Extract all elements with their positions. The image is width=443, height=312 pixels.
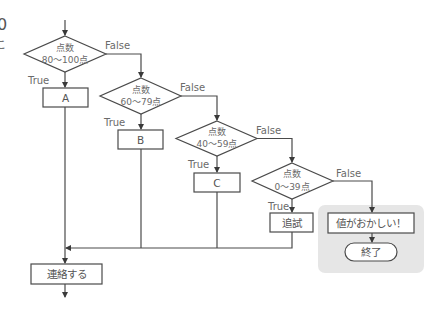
process-c-label: C	[213, 177, 220, 189]
decision-40-59: 点数 40〜59点	[176, 121, 257, 156]
true-label: True	[103, 117, 125, 128]
decision-label-line2: 60〜79点	[121, 97, 162, 107]
decision-label-line1: 点数	[132, 84, 150, 95]
merge-line	[66, 232, 292, 248]
process-a-label: A	[62, 92, 70, 104]
process-b: B	[118, 130, 163, 149]
edge-fragment-1: 0	[0, 15, 7, 34]
process-contact-label: 連絡する	[47, 268, 87, 280]
terminal-end-label: 終了	[361, 246, 381, 258]
process-retest: 追試	[270, 213, 313, 232]
false-label: False	[256, 125, 281, 136]
process-c: C	[194, 173, 240, 192]
decision-label-line1: 点数	[283, 168, 301, 179]
true-label: True	[267, 201, 289, 212]
decision-label-line2: 40〜59点	[197, 139, 238, 149]
arrow-d2-false	[181, 96, 217, 120]
decision-label-line1: 点数	[208, 126, 226, 137]
false-label: False	[180, 82, 205, 93]
true-label: True	[187, 159, 209, 170]
terminal-end: 終了	[345, 243, 397, 261]
decision-label-line1: 点数	[56, 42, 74, 53]
decision-label-line2: 0〜39点	[274, 182, 309, 192]
process-b-label: B	[137, 134, 144, 146]
process-contact: 連絡する	[31, 264, 102, 284]
process-invalid-value: 値がおかしい！	[328, 213, 414, 233]
process-invalid-value-label: 値がおかしい！	[336, 217, 406, 229]
arrow-d3-false	[257, 139, 292, 163]
true-label: True	[27, 75, 49, 86]
decision-80-100: 点数 80〜100点	[24, 36, 106, 72]
decision-60-79: 点数 60〜79点	[100, 78, 181, 114]
process-retest-label: 追試	[282, 217, 303, 229]
process-a: A	[43, 88, 88, 107]
false-label: False	[105, 40, 130, 51]
decision-label-line2: 80〜100点	[42, 55, 89, 65]
decision-0-39: 点数 0〜39点	[252, 163, 333, 199]
flowchart-canvas: 0 こ 点数 80〜100点 False True A 点数 60〜79点 Fa…	[0, 0, 443, 312]
edge-fragment-2: こ	[0, 39, 6, 50]
false-label: False	[336, 168, 361, 179]
arrow-d1-false	[106, 54, 141, 77]
